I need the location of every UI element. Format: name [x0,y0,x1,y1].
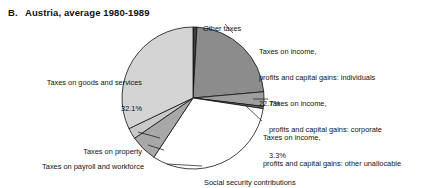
chart-figure: B.Austria, average 1980-1989 Taxes on go… [0,0,428,188]
label-income-other-line1: Taxes on income, [263,134,401,143]
label-social-security: Social security contributions 31.9% [204,162,296,188]
label-payroll-line1: Taxes on payroll and workforce [12,163,144,172]
label-social-security-line1: Social security contributions [204,179,296,188]
label-income-corporate-line1: Taxes on income, [269,100,382,109]
label-goods-services-line1: Taxes on goods and services [12,79,142,88]
label-income-individuals-line2: profits and capital gains: individuals [259,74,375,83]
label-income-individuals-line1: Taxes on income, [259,48,375,57]
label-other-taxes: Other taxes [203,8,241,51]
label-other-taxes-line1: Other taxes [203,25,241,34]
label-goods-services-value: 32.1% [12,105,142,114]
label-goods-services: Taxes on goods and services 32.1% [12,62,142,131]
label-payroll: Taxes on payroll and workforce 6.1% [12,146,144,188]
